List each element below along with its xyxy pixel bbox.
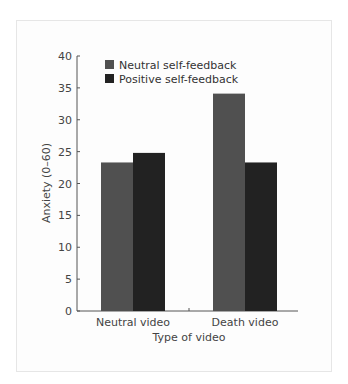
bar xyxy=(245,162,277,311)
x-category-neutral-video: Neutral video xyxy=(96,316,170,329)
y-tick-label: 5 xyxy=(65,273,72,286)
legend-label-positive: Positive self-feedback xyxy=(119,73,239,86)
bars xyxy=(101,94,277,311)
bar xyxy=(101,162,133,311)
y-tick-label: 25 xyxy=(58,146,72,159)
x-category-death-video: Death video xyxy=(212,316,279,329)
x-axis-title: Type of video xyxy=(152,331,226,344)
y-tick-label: 30 xyxy=(58,114,72,127)
y-tick-label: 15 xyxy=(58,209,72,222)
y-tick-label: 40 xyxy=(58,50,72,63)
y-axis-title: Anxiety (0–60) xyxy=(40,143,53,223)
legend-label-neutral: Neutral self-feedback xyxy=(119,59,237,72)
legend-swatch-neutral xyxy=(105,60,114,69)
bar xyxy=(133,153,165,311)
legend-swatch-positive xyxy=(105,74,114,83)
y-tick-label: 20 xyxy=(58,178,72,191)
y-tick-label: 35 xyxy=(58,82,72,95)
y-tick-label: 0 xyxy=(65,305,72,318)
y-tick-label: 10 xyxy=(58,241,72,254)
bar xyxy=(213,94,245,311)
bar-chart: 0510152025303540 Neutral self-feedback P… xyxy=(0,0,348,384)
legend: Neutral self-feedback Positive self-feed… xyxy=(105,59,239,86)
